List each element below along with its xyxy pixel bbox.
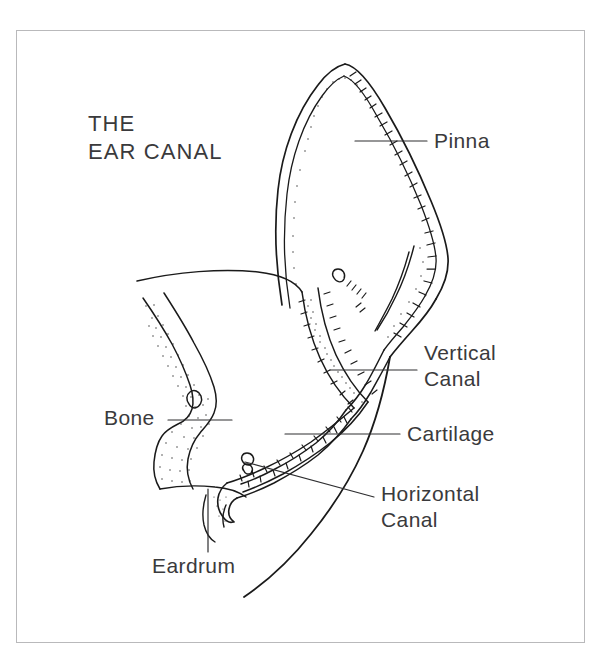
pinna-outline [276,64,448,357]
pinna-inner-contour [285,76,437,350]
label-horizontal-canal-line2: Canal [381,508,438,531]
label-bone: Bone [104,405,155,431]
label-vertical-canal-line1: Vertical [424,341,496,364]
label-eardrum: Eardrum [152,553,235,579]
figure-page: THEEAR CANAL Pinna VerticalCanal Cartila… [0,0,601,648]
temporal-bone [143,293,216,489]
figure-title-line1: THE [88,111,135,136]
bone-foramen [187,391,202,408]
label-vertical-canal-line2: Canal [424,367,481,390]
vertical-canal-walls [302,288,390,419]
label-horizontal-canal-line1: Horizontal [381,482,480,505]
label-cartilage: Cartilage [407,421,495,447]
canal-isthmus-ticks [347,281,366,312]
label-horizontal-canal: HorizontalCanal [381,481,480,532]
eardrum-stipple [213,496,229,521]
figure-title-line2: EAR CANAL [88,139,223,164]
label-vertical-canal: VerticalCanal [424,340,496,391]
ear-canal-illustration [0,0,601,648]
pinna-notch [375,246,414,331]
vertical-canal-hatching [299,292,377,404]
jaw-neck-contour [244,357,390,597]
label-pinna: Pinna [434,128,490,154]
pinna-stipple [292,77,423,337]
figure-title: THEEAR CANAL [88,110,223,166]
horizontal-canal-hatching [240,407,352,487]
mandible-edge [160,486,246,542]
